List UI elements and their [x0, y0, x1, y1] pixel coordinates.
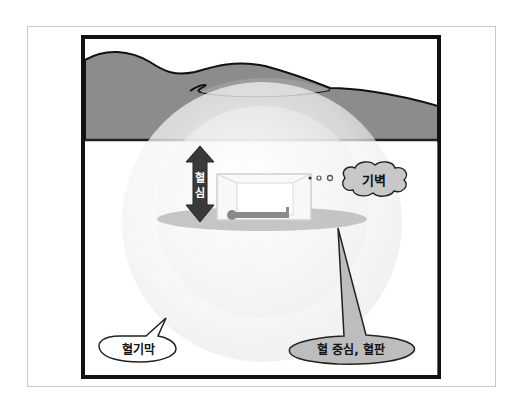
dot-3 — [328, 176, 333, 181]
arrow-label-2: 심 — [195, 186, 205, 200]
cloud-label: 기벽 — [362, 173, 386, 188]
arrow-label-1: 혈 — [195, 171, 205, 185]
center-label: 혈 중심, 혈판 — [317, 342, 385, 357]
membrane-label: 혈기막 — [122, 342, 155, 357]
diagram-canvas: 기벽 혈 심 혈기막 혈 중심, 혈판 — [0, 0, 525, 410]
tomb-chamber — [217, 174, 311, 220]
dot-1 — [308, 176, 311, 179]
dot-2 — [317, 176, 321, 180]
